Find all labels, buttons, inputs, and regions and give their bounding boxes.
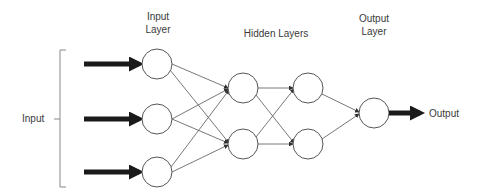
input-layer-nodes: [142, 49, 172, 187]
hidden-layer-1-nodes: [228, 73, 258, 159]
input-node-1: [142, 49, 172, 79]
input-node-2: [142, 104, 172, 134]
edges-hidden2-output: [322, 94, 359, 139]
output-node: [359, 98, 389, 128]
input-node-3: [142, 157, 172, 187]
hidden2-node-1: [293, 73, 323, 103]
input-bracket: [54, 50, 66, 187]
input-arrows: [84, 64, 139, 172]
neural-network-diagram: [0, 0, 482, 194]
output-layer-nodes: [359, 98, 389, 128]
hidden2-node-2: [293, 129, 323, 159]
edges-hidden1-hidden2: [256, 88, 294, 144]
edges-input-hidden1: [170, 64, 229, 172]
hidden-layer-2-nodes: [293, 73, 323, 159]
hidden1-node-1: [228, 73, 258, 103]
hidden1-node-2: [228, 129, 258, 159]
